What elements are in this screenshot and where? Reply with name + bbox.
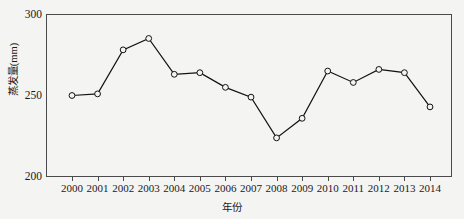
series-line <box>72 38 430 137</box>
x-tick-mark-2010 <box>328 177 329 181</box>
data-point-2012 <box>376 67 382 73</box>
data-point-2002 <box>120 47 126 53</box>
x-tick-label-2014: 2014 <box>410 183 450 194</box>
x-tick-mark-2003 <box>149 177 150 181</box>
x-tick-mark-2014 <box>430 177 431 181</box>
y-tick-label-200: 200 <box>0 171 42 183</box>
data-point-2000 <box>69 93 75 99</box>
x-tick-mark-2009 <box>302 177 303 181</box>
data-point-2001 <box>95 91 101 97</box>
chart-figure: 300 250 200 蒸发量(mm) 20002001200220032004… <box>0 0 464 219</box>
x-tick-mark-2004 <box>174 177 175 181</box>
x-tick-mark-2000 <box>72 177 73 181</box>
data-point-2014 <box>427 104 433 110</box>
y-tick-label-300: 300 <box>0 9 42 21</box>
data-point-2013 <box>402 70 408 76</box>
data-point-2011 <box>350 80 356 86</box>
y-axis-title: 蒸发量(mm) <box>5 28 20 112</box>
data-point-2006 <box>223 84 229 90</box>
x-tick-mark-2012 <box>379 177 380 181</box>
series-markers <box>69 36 433 141</box>
data-point-2008 <box>274 135 280 141</box>
line-chart-canvas <box>46 14 452 177</box>
data-point-2004 <box>171 71 177 77</box>
x-tick-mark-2001 <box>98 177 99 181</box>
data-point-2010 <box>325 68 331 74</box>
x-tick-mark-2011 <box>353 177 354 181</box>
data-point-2007 <box>248 94 254 100</box>
x-tick-mark-2002 <box>123 177 124 181</box>
data-point-2005 <box>197 70 203 76</box>
data-point-2009 <box>299 115 305 121</box>
x-tick-mark-2008 <box>277 177 278 181</box>
x-tick-mark-2005 <box>200 177 201 181</box>
x-tick-mark-2006 <box>225 177 226 181</box>
data-point-2003 <box>146 36 152 42</box>
x-tick-mark-2013 <box>404 177 405 181</box>
x-axis-title: 年份 <box>0 199 464 214</box>
x-tick-mark-2007 <box>251 177 252 181</box>
